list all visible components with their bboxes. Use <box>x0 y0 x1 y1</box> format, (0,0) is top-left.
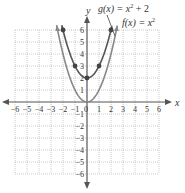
y-tick-label: −3 <box>75 134 84 143</box>
y-tick-label: −4 <box>75 146 84 155</box>
g-data-point <box>85 76 90 81</box>
y-tick-label: 1 <box>80 86 84 95</box>
g-label-tail: + 2 <box>133 3 149 14</box>
x-tick-label: 4 <box>133 105 137 114</box>
x-tick-label: −6 <box>11 105 20 114</box>
y-tick-label: 6 <box>80 26 84 35</box>
x-tick-label: 5 <box>145 105 149 114</box>
x-tick-label: 2 <box>109 105 113 114</box>
x-axis-label: x <box>174 97 180 108</box>
y-axis-arrow-up-icon <box>84 16 90 23</box>
x-tick-label: −4 <box>35 105 44 114</box>
f-function-label: f(x) = x2 <box>122 17 155 29</box>
y-tick-label: −6 <box>75 170 84 179</box>
g-function-label: g(x) = x2 + 2 <box>98 3 149 15</box>
x-tick-label: 1 <box>97 105 101 114</box>
y-tick-label: 4 <box>80 50 84 59</box>
f-exponent: 2 <box>152 17 155 23</box>
y-tick-label: 3 <box>80 62 84 71</box>
coordinate-plane: −6−5−4−3−2−10123456−6−5−4−3−2−1123456 y … <box>0 0 185 193</box>
g-data-point <box>97 64 102 69</box>
f-label-base: f(x) = x <box>122 17 153 29</box>
y-axis-label: y <box>85 5 91 16</box>
y-tick-label: −1 <box>75 110 84 119</box>
g-data-point <box>73 64 78 69</box>
g-label-base: g(x) = x <box>98 3 131 15</box>
y-tick-label: 5 <box>80 38 84 47</box>
x-tick-label: 0 <box>84 105 88 114</box>
y-tick-label: −5 <box>75 158 84 167</box>
y-tick-label: −2 <box>75 122 84 131</box>
x-axis-arrow-right-icon <box>165 99 172 105</box>
g-data-point <box>61 28 66 33</box>
x-tick-label: −3 <box>47 105 56 114</box>
x-tick-label: −5 <box>23 105 32 114</box>
x-tick-label: 3 <box>121 105 125 114</box>
x-tick-label: 6 <box>157 105 161 114</box>
x-axis-arrow-left-icon <box>2 99 9 105</box>
x-tick-label: −2 <box>59 105 68 114</box>
y-axis-arrow-down-icon <box>84 182 90 189</box>
